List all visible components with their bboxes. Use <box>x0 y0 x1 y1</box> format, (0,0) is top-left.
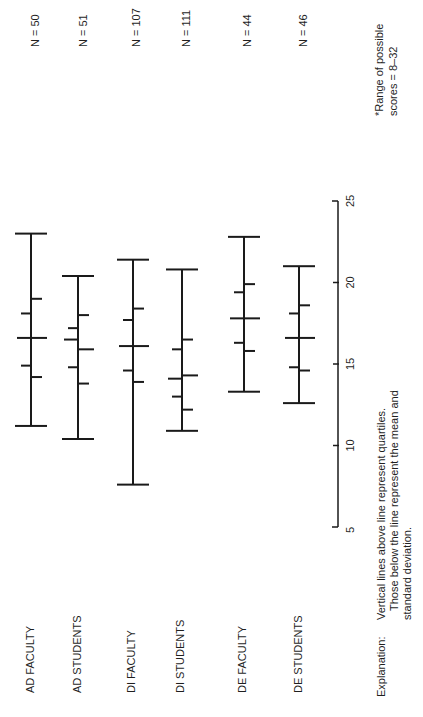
group-di-students <box>166 269 198 430</box>
notes: *Range of possiblescores = 8–32Explanati… <box>373 24 413 697</box>
axis-tick-label: 25 <box>344 195 356 207</box>
category-label: DI FACULTY <box>125 630 137 693</box>
n-label: N = 51 <box>77 14 89 47</box>
group-ad-faculty <box>15 234 47 426</box>
explanation-line-2: Those below the line represent the mean … <box>388 390 400 611</box>
n-label: N = 46 <box>297 14 309 47</box>
axis-tick-label: 20 <box>344 276 356 288</box>
category-label: AD STUDENTS <box>71 615 83 693</box>
n-label: N = 111 <box>180 10 192 47</box>
plot-area <box>15 234 315 485</box>
axis-tick-label: 15 <box>344 358 356 370</box>
n-labels: N = 50N = 51N = 107N = 111N = 44N = 46 <box>29 8 309 47</box>
n-label: N = 44 <box>241 14 253 47</box>
n-label: N = 50 <box>29 14 41 47</box>
range-note-line-1: *Range of possible <box>373 24 385 116</box>
axis-tick-label: 10 <box>344 439 356 451</box>
score-axis: 510152025 <box>332 195 356 533</box>
group-ad-students <box>62 276 94 439</box>
explanation-line-3: standard deviation. <box>401 527 413 620</box>
category-label: DI STUDENTS <box>174 620 186 693</box>
explanation-label: Explanation: <box>375 636 387 697</box>
n-label: N = 107 <box>130 8 142 47</box>
group-de-faculty <box>228 237 260 392</box>
box-summary-chart: 510152025 AD FACULTYAD STUDENTSDI FACULT… <box>0 0 423 717</box>
explanation-line-1: Vertical lines above line represent quar… <box>375 408 387 620</box>
category-label: AD FACULTY <box>24 625 36 693</box>
group-de-students <box>283 266 315 403</box>
range-note-line-2: scores = 8–32 <box>387 47 399 116</box>
axis-tick-label: 5 <box>344 527 356 533</box>
group-di-faculty <box>117 260 149 485</box>
category-label: DE FACULTY <box>236 625 248 693</box>
category-labels: AD FACULTYAD STUDENTSDI FACULTYDI STUDEN… <box>24 615 304 693</box>
category-label: DE STUDENTS <box>292 615 304 693</box>
